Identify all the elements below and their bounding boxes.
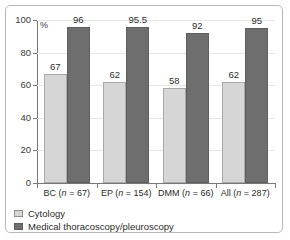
- y-axis-tick-label: 40: [9, 113, 31, 123]
- y-axis-tick-label: 0: [9, 178, 31, 188]
- bar-thoracoscopy: [126, 27, 149, 183]
- legend-label: Cytology: [28, 209, 65, 219]
- y-axis-tick: [33, 150, 37, 151]
- y-axis-tick-label: 100: [9, 15, 31, 25]
- x-axis-tick: [275, 184, 276, 188]
- y-axis-tick-label: 20: [9, 145, 31, 155]
- bar-thoracoscopy: [245, 28, 268, 183]
- plot-area: 67966295.558926295: [37, 20, 275, 183]
- x-axis-label: DMM (n = 66): [156, 189, 216, 198]
- bar-cytology: [222, 82, 245, 183]
- x-axis-tick: [216, 184, 217, 188]
- bar-thoracoscopy: [67, 27, 90, 183]
- legend-label: Medical thoracoscopy/pleuroscopy: [28, 222, 174, 232]
- legend-swatch-light: [14, 210, 23, 217]
- legend-item: Medical thoracoscopy/pleuroscopy: [14, 220, 174, 233]
- y-axis-tick-label: 60: [9, 80, 31, 90]
- legend-item: Cytology: [14, 207, 174, 220]
- bar-value-label: 95: [239, 16, 274, 26]
- chart-figure: % 67966295.558926295 CytologyMedical tho…: [5, 5, 283, 233]
- bar-value-label: 95.5: [120, 15, 155, 25]
- bar-cytology: [44, 74, 67, 183]
- bar-cytology: [163, 88, 186, 183]
- y-axis-tick: [33, 53, 37, 54]
- x-axis-tick: [37, 184, 38, 188]
- y-axis-tick: [33, 85, 37, 86]
- x-axis-label: All (n = 287): [216, 189, 276, 198]
- bar-value-label: 96: [61, 15, 96, 25]
- x-axis-tick: [156, 184, 157, 188]
- x-axis-tick: [97, 184, 98, 188]
- bar-cytology: [103, 82, 126, 183]
- y-axis-tick-label: 80: [9, 48, 31, 58]
- x-axis-label: BC (n = 67): [37, 189, 97, 198]
- legend-swatch-dark: [14, 223, 23, 230]
- bar-thoracoscopy: [186, 33, 209, 183]
- y-axis-tick: [33, 20, 37, 21]
- bar-value-label: 92: [180, 21, 215, 31]
- x-axis-label: EP (n = 154): [97, 189, 157, 198]
- y-axis-tick: [33, 118, 37, 119]
- chart-legend: CytologyMedical thoracoscopy/pleuroscopy: [14, 207, 174, 233]
